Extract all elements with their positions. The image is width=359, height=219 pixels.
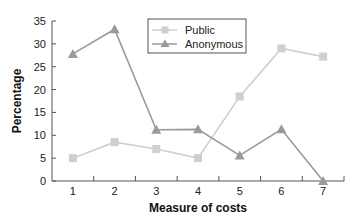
x-tick-label: 4	[195, 185, 201, 197]
square-marker-icon	[69, 154, 77, 162]
series-public	[69, 44, 327, 162]
legend-label-public: Public	[185, 24, 215, 36]
square-marker-icon	[162, 27, 169, 34]
square-marker-icon	[152, 145, 160, 153]
square-marker-icon	[319, 53, 327, 61]
square-marker-icon	[236, 92, 244, 100]
x-tick-label: 7	[320, 185, 326, 197]
y-axis: 05101520253035	[34, 15, 56, 187]
square-marker-icon	[277, 44, 285, 52]
triangle-marker-icon	[276, 124, 286, 133]
y-axis-title: Percentage	[10, 68, 24, 133]
y-tick-label: 35	[34, 15, 46, 27]
y-tick-label: 10	[34, 129, 46, 141]
triangle-marker-icon	[110, 24, 120, 33]
y-tick-label: 5	[40, 152, 46, 164]
y-tick-label: 15	[34, 106, 46, 118]
x-tick-label: 5	[237, 185, 243, 197]
square-marker-icon	[194, 154, 202, 162]
x-tick-label: 3	[153, 185, 159, 197]
x-tick-label: 6	[278, 185, 284, 197]
square-marker-icon	[111, 138, 119, 146]
x-tick-label: 2	[112, 185, 118, 197]
y-tick-label: 25	[34, 61, 46, 73]
legend: Public Anonymous	[148, 19, 246, 53]
triangle-marker-icon	[68, 49, 78, 58]
x-axis-title: Measure of costs	[149, 201, 247, 215]
y-tick-label: 20	[34, 84, 46, 96]
line-chart: 05101520253035 1234567 Measure of costs …	[0, 0, 359, 219]
y-tick-label: 30	[34, 38, 46, 50]
y-tick-label: 0	[40, 175, 46, 187]
x-axis: 1234567	[52, 176, 344, 197]
triangle-marker-icon	[235, 150, 245, 159]
x-tick-label: 1	[70, 185, 76, 197]
legend-label-anonymous: Anonymous	[185, 38, 244, 50]
